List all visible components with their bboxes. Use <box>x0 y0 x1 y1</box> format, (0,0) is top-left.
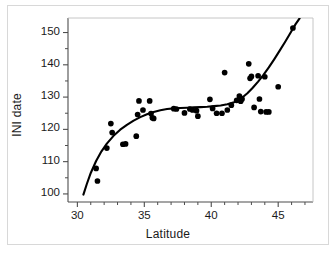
x-tick-label: 45 <box>263 209 293 221</box>
y-tick-label: 110 <box>30 154 60 166</box>
data-point <box>195 113 201 119</box>
data-point <box>95 178 101 184</box>
data-point <box>104 145 110 151</box>
data-point <box>123 141 129 147</box>
data-point <box>275 84 281 90</box>
data-point <box>257 96 263 102</box>
y-tick-label: 140 <box>30 57 60 69</box>
data-point <box>210 106 216 112</box>
data-point <box>251 105 257 111</box>
data-point <box>255 73 261 79</box>
x-tick-label: 40 <box>196 209 226 221</box>
data-point <box>136 98 142 104</box>
data-point <box>239 96 245 102</box>
data-point <box>214 110 220 116</box>
data-point <box>222 70 228 76</box>
fitted-trend-curve <box>83 18 299 194</box>
y-tick-label: 130 <box>30 89 60 101</box>
data-point <box>135 112 141 118</box>
data-point <box>151 116 157 122</box>
data-point <box>219 110 225 116</box>
y-axis-title: INI date <box>10 74 24 156</box>
data-point <box>194 108 200 114</box>
data-point <box>262 74 268 80</box>
data-point <box>246 61 252 67</box>
data-point <box>93 166 99 172</box>
x-axis-title: Latitude <box>0 227 336 241</box>
data-point-group <box>93 25 295 184</box>
y-tick-label: 120 <box>30 121 60 133</box>
data-point <box>140 107 146 113</box>
x-tick-label: 35 <box>129 209 159 221</box>
data-point <box>147 98 153 104</box>
y-tick-label: 150 <box>30 25 60 37</box>
data-point <box>266 109 272 115</box>
data-point <box>258 109 264 115</box>
data-point <box>290 25 296 31</box>
data-point <box>207 97 213 103</box>
data-point <box>249 74 255 80</box>
data-point <box>109 130 115 136</box>
data-point <box>133 133 139 139</box>
figure: INI date Latitude 1001101201301401503035… <box>0 0 336 257</box>
data-point <box>182 110 188 116</box>
data-point <box>108 121 114 127</box>
y-axis-title-wrapper: INI date <box>8 78 26 158</box>
data-point <box>174 106 180 112</box>
x-tick-label: 30 <box>62 209 92 221</box>
y-tick-label: 100 <box>30 186 60 198</box>
data-point <box>228 102 234 108</box>
data-point <box>224 107 230 113</box>
